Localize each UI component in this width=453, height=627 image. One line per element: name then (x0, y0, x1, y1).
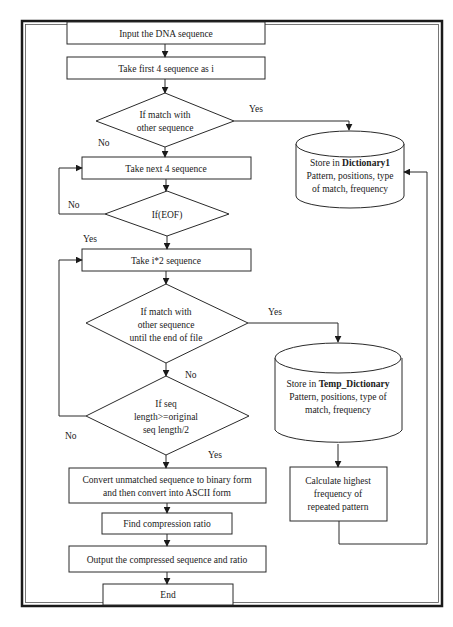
edge-label-seqlen-yes: Yes (208, 450, 222, 460)
node-temp-dictionary-text-1: Pattern, positions, type of (289, 392, 387, 402)
node-calculate: Calculate highest frequency of repeated … (290, 467, 387, 521)
node-match2-text-1: If match with (140, 307, 191, 317)
node-match1-decision: If match with other sequence (96, 93, 234, 147)
edge-label-eof-no: No (68, 200, 80, 210)
node-convert-text-2: and then convert into ASCII form (103, 488, 232, 498)
edge-label-match2-no: No (185, 370, 197, 380)
node-match1-text-2: other sequence (137, 123, 194, 133)
node-dictionary1-storage: Store in Dictionary1 Pattern, positions,… (296, 131, 404, 208)
node-eof-text: If(EOF) (152, 210, 183, 221)
node-calculate-text-1: Calculate highest (305, 476, 371, 486)
edge-label-seqlen-no: No (65, 431, 77, 441)
node-output-text: Output the compressed sequence and ratio (87, 555, 248, 565)
node-seqlen-text-2: length>=original (134, 412, 198, 422)
edge-label-match2-yes: Yes (268, 307, 282, 317)
flowchart-canvas: Input the DNA sequence Take first 4 sequ… (0, 0, 453, 627)
node-dictionary1-text-1: Pattern, positions, type (306, 171, 393, 181)
node-calculate-text-2: frequency of (314, 489, 363, 499)
node-match1-text-1: If match with (139, 110, 190, 120)
edge-label-match1-no: No (98, 138, 110, 148)
node-temp-dictionary-title: Store in Temp_Dictionary (286, 379, 389, 389)
node-seqlen-decision: If seq length>=original seq length/2 (86, 376, 249, 455)
node-take-next-text: Take next 4 sequence (125, 164, 206, 174)
node-dictionary1-text-2: of match, frequency (312, 184, 388, 194)
node-convert-text-1: Convert unmatched sequence to binary for… (82, 475, 252, 485)
node-match2-decision: If match with other sequence until the e… (86, 284, 248, 363)
node-temp-dictionary-storage: Store in Temp_Dictionary Pattern, positi… (275, 343, 402, 442)
edge-label-match1-yes: Yes (249, 104, 263, 114)
edge-match1-yes-to-dictionary1 (234, 121, 349, 130)
node-end: End (103, 584, 233, 605)
node-seqlen-text-1: If seq (155, 399, 177, 409)
edge-match2-yes-to-temp-dictionary (248, 323, 338, 342)
node-end-text: End (160, 590, 176, 600)
node-take-i2: Take i*2 sequence (82, 249, 251, 271)
node-eof-decision: If(EOF) (105, 191, 229, 236)
node-seqlen-text-3: seq length/2 (143, 425, 189, 435)
node-input: Input the DNA sequence (67, 22, 265, 44)
node-take-i2-text: Take i*2 sequence (131, 256, 201, 266)
edge-label-eof-yes: Yes (83, 234, 97, 244)
node-temp-dictionary-text-2: match, frequency (305, 405, 371, 415)
node-input-text: Input the DNA sequence (119, 29, 213, 39)
node-ratio: Find compression ratio (102, 513, 232, 534)
node-convert: Convert unmatched sequence to binary for… (69, 468, 266, 503)
node-match2-text-2: other sequence (138, 320, 195, 330)
node-match2-text-3: until the end of file (130, 333, 203, 343)
node-take-first: Take first 4 sequence as i (67, 57, 265, 79)
node-calculate-text-3: repeated pattern (308, 502, 369, 512)
edge-seqlen-no-to-take-i2 (59, 260, 86, 416)
node-dictionary1-title: Store in Dictionary1 (310, 158, 390, 168)
node-take-first-text: Take first 4 sequence as i (118, 64, 214, 74)
node-output: Output the compressed sequence and ratio (69, 546, 266, 572)
node-ratio-text: Find compression ratio (123, 519, 211, 529)
node-take-next: Take next 4 sequence (82, 157, 251, 179)
